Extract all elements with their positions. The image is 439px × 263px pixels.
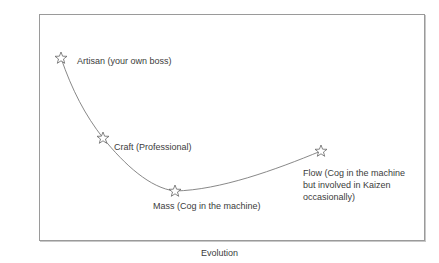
x-axis-label: Evolution bbox=[0, 248, 439, 258]
label-artisan: Artisan (your own boss) bbox=[77, 56, 172, 67]
star-marker-artisan-icon bbox=[55, 52, 67, 63]
label-mass: Mass (Cog in the machine) bbox=[153, 201, 261, 212]
evolution-curve-plot bbox=[0, 0, 439, 263]
value-curve bbox=[61, 58, 321, 191]
label-craft: Craft (Professional) bbox=[114, 142, 192, 153]
star-marker-craft-icon bbox=[97, 132, 109, 143]
label-flow-line2: but involved in Kaizen bbox=[303, 180, 391, 191]
label-flow-line3: occasionally) bbox=[303, 192, 355, 203]
star-marker-mass-icon bbox=[169, 185, 181, 196]
label-flow-line1: Flow (Cog in the machine bbox=[303, 168, 405, 179]
star-marker-flow-icon bbox=[315, 145, 327, 156]
